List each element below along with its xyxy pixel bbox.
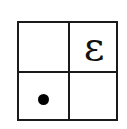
epsilon-symbol: ε [84, 26, 105, 66]
cell-top-left [19, 23, 68, 71]
cell-bottom-right [70, 73, 118, 119]
cell-top-right: ε [70, 23, 118, 71]
grid-diagram: ε [17, 21, 118, 121]
cell-bottom-left [19, 73, 68, 119]
dot-icon [38, 94, 49, 105]
